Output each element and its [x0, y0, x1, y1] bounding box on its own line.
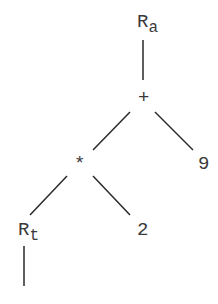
node-rt-label: R: [18, 219, 29, 241]
node-times-label: *: [74, 153, 85, 175]
node-times: *: [74, 155, 85, 174]
node-nine-label: 9: [198, 153, 209, 175]
node-ra-subscript: a: [148, 19, 158, 37]
node-plus: +: [138, 89, 149, 108]
tree-edges: [0, 0, 218, 304]
node-plus-label: +: [138, 87, 149, 109]
edge-plus-nine: [155, 112, 193, 150]
node-two-label: 2: [137, 219, 148, 241]
expression-tree-diagram: Ra + * 9 Rt 2: [0, 0, 218, 304]
node-ra-label: R: [137, 11, 148, 33]
node-rt: Rt: [18, 221, 39, 244]
edge-plus-times: [93, 112, 130, 150]
node-nine: 9: [198, 155, 209, 174]
node-two: 2: [137, 221, 148, 240]
node-ra: Ra: [137, 13, 158, 36]
edge-times-rt: [30, 176, 67, 215]
node-rt-subscript: t: [29, 227, 39, 245]
edge-times-two: [93, 176, 130, 215]
